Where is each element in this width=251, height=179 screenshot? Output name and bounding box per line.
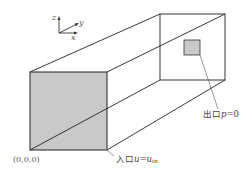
y-axis-label: y [79,19,84,27]
origin-label: (0,0,0) [13,156,40,164]
inlet-label: 入口u=uin [116,155,158,164]
inlet-eq: = [139,154,146,164]
inlet-label-cn: 入口 [116,154,134,164]
outlet-patch [184,40,200,55]
inlet-rhs-sub: in [152,157,158,164]
axes-indicator [58,16,80,35]
z-axis-label: z [52,14,56,22]
inlet-leader [107,150,114,156]
duct-diagram [0,0,251,179]
outlet-label-cn: 出口 [203,109,221,119]
inlet-face [30,72,107,150]
outlet-eq: = [226,109,233,119]
x-axis-label: x [71,34,76,42]
outlet-label: 出口p=0 [203,110,239,119]
outlet-value: 0 [234,109,239,119]
